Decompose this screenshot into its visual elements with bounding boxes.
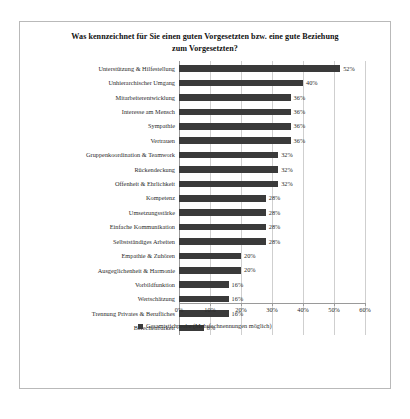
bar[interactable] — [179, 296, 229, 303]
bar-row: 28% — [179, 220, 365, 234]
category-label: Umsetzungsstärke — [20, 210, 175, 216]
bar-value-label: 36% — [294, 123, 306, 129]
gridline-60 — [365, 61, 366, 335]
bar-value-label: 16% — [232, 282, 244, 288]
bar[interactable] — [179, 195, 266, 202]
bar-value-label: 28% — [269, 195, 281, 201]
bar[interactable] — [179, 253, 241, 260]
chart-title: Was kennzeichnet für Sie einen guten Vor… — [34, 31, 376, 54]
bar-row: 36% — [179, 134, 365, 148]
bar[interactable] — [179, 152, 278, 159]
bar[interactable] — [179, 281, 229, 288]
bar-row: 32% — [179, 177, 365, 191]
bar-rows: 52%40%36%36%36%36%32%32%32%28%28%28%28%2… — [179, 61, 365, 335]
chart-legend: Gesamtstichprobe (Mehrfachnennungen mögl… — [20, 323, 390, 329]
bar-value-label: 20% — [244, 253, 256, 259]
plot-area: 52%40%36%36%36%36%32%32%32%28%28%28%28%2… — [179, 61, 365, 335]
bar[interactable] — [179, 123, 291, 130]
category-label: Gruppenkoordination & Teamwork — [20, 152, 175, 158]
category-label: Ausgeglichenheit & Harmonie — [20, 268, 175, 274]
bar-value-label: 28% — [269, 224, 281, 230]
bar[interactable] — [179, 80, 303, 87]
category-label: Offenheit & Ehrlichkeit — [20, 181, 175, 187]
bar[interactable] — [179, 109, 291, 116]
tick-label: 50% — [328, 307, 340, 313]
bar-row: 36% — [179, 90, 365, 104]
bar-value-label: 16% — [232, 296, 244, 302]
tick-label: 30% — [266, 307, 278, 313]
bar-value-label: 20% — [244, 267, 256, 273]
bar-row: 32% — [179, 162, 365, 176]
chart-container: Was kennzeichnet für Sie einen guten Vor… — [19, 21, 391, 389]
bar-row: 28% — [179, 234, 365, 248]
bar[interactable] — [179, 238, 266, 245]
bar[interactable] — [179, 137, 291, 144]
category-label: Mitarbeiterentwicklung — [20, 95, 175, 101]
category-label: Empathie & Zuhören — [20, 253, 175, 259]
bar-row: 52% — [179, 61, 365, 75]
bar[interactable] — [179, 65, 340, 72]
category-label: Vertrauen — [20, 138, 175, 144]
bar-row: 40% — [179, 76, 365, 90]
bar-value-label: 32% — [281, 181, 293, 187]
category-label: Einfache Kommunikation — [20, 224, 175, 230]
bar-value-label: 36% — [294, 109, 306, 115]
bar-value-label: 32% — [281, 167, 293, 173]
category-label: Sympathie — [20, 123, 175, 129]
category-label: Interesse am Mensch — [20, 109, 175, 115]
category-label: Rückendeckung — [20, 167, 175, 173]
category-label: Kompetenz — [20, 195, 175, 201]
bar-row: 16% — [179, 278, 365, 292]
bar-value-label: 28% — [269, 210, 281, 216]
bar-row: 36% — [179, 119, 365, 133]
tick-label: 20% — [235, 307, 247, 313]
bar-value-label: 36% — [294, 95, 306, 101]
bar-row: 28% — [179, 206, 365, 220]
chart-title-line-1: Was kennzeichnet für Sie einen guten Vor… — [71, 32, 338, 41]
bar[interactable] — [179, 267, 241, 274]
bar-row: 36% — [179, 105, 365, 119]
legend-swatch-icon — [138, 324, 143, 329]
legend-label: Gesamtstichprobe (Mehrfachnennungen mögl… — [146, 323, 272, 329]
chart-title-line-2: zum Vorgesetzten? — [172, 44, 238, 53]
category-label: Vorbildfunktion — [20, 282, 175, 288]
category-label: Unhierarchischer Umgang — [20, 80, 175, 86]
category-label: Selbstständiges Arbeiten — [20, 239, 175, 245]
bar-row: 32% — [179, 148, 365, 162]
category-label: Unterstützung & Hilfestellung — [20, 66, 175, 72]
plot-wrapper: Unterstützung & HilfestellungUnhierarchi… — [20, 61, 390, 335]
value-axis: 0%10%20%30%40%50%60% — [179, 303, 365, 317]
bar-row: 20% — [179, 263, 365, 277]
tick-label: 0% — [175, 307, 183, 313]
bar-value-label: 36% — [294, 138, 306, 144]
tick-label: 10% — [204, 307, 216, 313]
bar[interactable] — [179, 166, 278, 173]
bar-value-label: 52% — [343, 66, 355, 72]
bar-value-label: 28% — [269, 239, 281, 245]
bar[interactable] — [179, 94, 291, 101]
bar[interactable] — [179, 224, 266, 231]
category-label: Trennung Privates & Berufliches — [20, 311, 175, 317]
bar[interactable] — [179, 209, 266, 216]
tick-label: 40% — [297, 307, 309, 313]
bar[interactable] — [179, 181, 278, 188]
category-axis: Unterstützung & HilfestellungUnhierarchi… — [20, 61, 179, 335]
tick-label: 60% — [359, 307, 371, 313]
bar-row: 28% — [179, 191, 365, 205]
bar-value-label: 32% — [281, 152, 293, 158]
category-label: Wertschätzung — [20, 296, 175, 302]
bar-value-label: 40% — [306, 80, 318, 86]
bar-row: 20% — [179, 249, 365, 263]
